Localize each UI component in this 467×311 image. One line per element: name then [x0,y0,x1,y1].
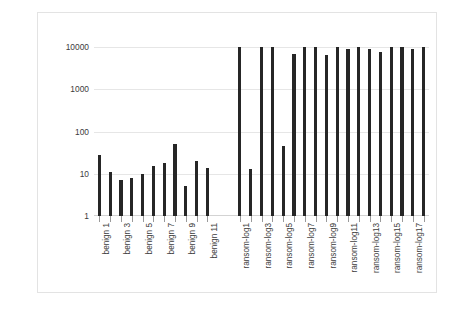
x-axis-tick [348,216,349,222]
x-axis-tick [424,216,425,222]
bar [379,52,382,216]
x-axis-tick [251,216,252,222]
bar [184,186,187,216]
x-axis-tick [326,216,327,222]
bar [173,144,176,217]
x-axis-tick-marks [94,216,429,222]
x-axis-tick-label: ransom-log11 [351,223,359,272]
x-axis-tick-label: ransom-log5 [286,223,294,269]
x-axis-tick [316,216,317,222]
bar [390,47,393,216]
x-axis-tick [207,216,208,222]
x-axis-tick-label: benign 3 [124,223,132,254]
x-axis-tick [370,216,371,222]
x-axis-tick-label: benign 1 [103,223,111,254]
bar [130,178,133,216]
bar [303,47,306,216]
x-axis-tick [110,216,111,222]
x-axis-tick [380,216,381,222]
x-axis-tick [391,216,392,222]
bar [206,168,209,216]
x-axis-tick-label: benign 7 [168,223,176,254]
bar [314,47,317,216]
x-axis-tick-label: ransom-log17 [416,223,424,273]
x-axis-tick-label: ransom-log9 [330,223,338,269]
x-axis-tick-label: benign 5 [146,223,154,254]
x-axis-tick [175,216,176,222]
x-axis-tick-label: benign 11 [211,223,219,258]
x-axis-tick [337,216,338,222]
bar [119,180,122,216]
x-axis-tick [197,216,198,222]
bar [422,47,425,216]
bar [238,47,241,216]
x-axis-tick-labels: benign 1benign 3benign 5benign 7benign 9… [94,223,429,301]
bar [325,55,328,216]
bar [195,161,198,216]
y-axis-tick-label: 10000 [66,43,89,51]
x-axis-tick [99,216,100,222]
bar [346,49,349,216]
x-axis-tick [305,216,306,222]
bar [400,47,403,216]
x-axis-tick [272,216,273,222]
plot-area: 110100100010000 [94,47,429,216]
y-axis-tick-label: 1 [84,212,89,220]
x-axis-tick [240,216,241,222]
bar [282,146,285,216]
y-axis-tick-label: 10 [80,170,89,178]
y-axis-title: Number of Different File Types [28,0,46,13]
bar [109,172,112,216]
x-axis-tick [262,216,263,222]
bar [163,163,166,216]
bar [98,155,101,216]
chart-frame: Number of Different File Types 110100100… [37,12,437,293]
bar [271,47,274,216]
x-axis-tick-label: ransom-log3 [265,223,273,269]
bar [368,49,371,216]
x-axis-tick [294,216,295,222]
bar [249,169,252,216]
x-axis-tick [132,216,133,222]
x-axis-tick [413,216,414,222]
bar [292,54,295,216]
bar [357,47,360,216]
x-axis-tick-label: benign 9 [189,223,197,254]
x-axis-tick [186,216,187,222]
bar-series [94,47,429,216]
bar [152,166,155,216]
y-axis-tick-label: 1000 [70,85,89,93]
x-axis-tick [283,216,284,222]
x-axis-tick [402,216,403,222]
x-axis-tick-label: ransom-log1 [243,223,251,269]
x-axis-tick [143,216,144,222]
bar [141,174,144,216]
bar [260,47,263,216]
x-axis-tick-label: ransom-log15 [394,223,402,273]
x-axis-tick [164,216,165,222]
bar [411,49,414,216]
x-axis-tick [153,216,154,222]
y-axis-tick-label: 100 [75,127,89,135]
x-axis-tick-label: ransom-log13 [373,223,381,273]
x-axis-tick [359,216,360,222]
x-axis-tick-label: ransom-log7 [308,223,316,269]
y-axis-title-text: Number of Different File Types [28,0,38,13]
x-axis-tick [121,216,122,222]
bar [336,47,339,216]
